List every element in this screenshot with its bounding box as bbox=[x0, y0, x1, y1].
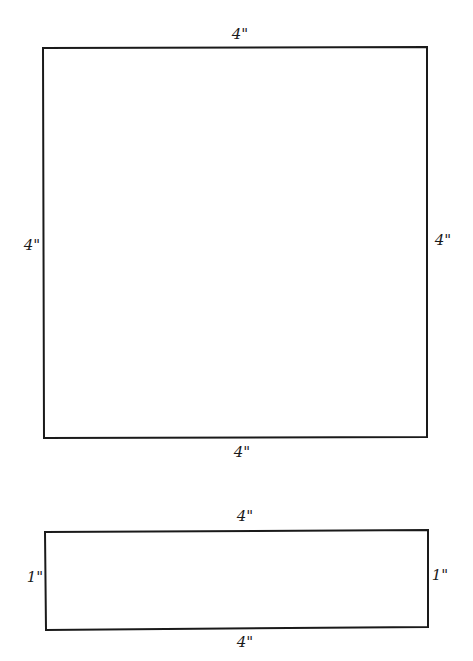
rectangle-bottom-label: 4" bbox=[237, 635, 253, 650]
square-right-label: 4" bbox=[435, 233, 451, 248]
square-left-label: 4" bbox=[24, 238, 40, 253]
diagram-canvas: 4" 4" 4" 4" 4" 1" 1" 4" bbox=[0, 0, 473, 661]
rectangle-shape bbox=[45, 530, 428, 630]
square-top-label: 4" bbox=[232, 27, 248, 42]
square-shape bbox=[43, 47, 427, 438]
rectangle-top-label: 4" bbox=[237, 509, 253, 524]
rectangle-right-label: 1" bbox=[432, 568, 448, 583]
rectangle-left-label: 1" bbox=[27, 570, 43, 585]
square-bottom-label: 4" bbox=[234, 445, 250, 460]
diagram-svg bbox=[0, 0, 473, 661]
